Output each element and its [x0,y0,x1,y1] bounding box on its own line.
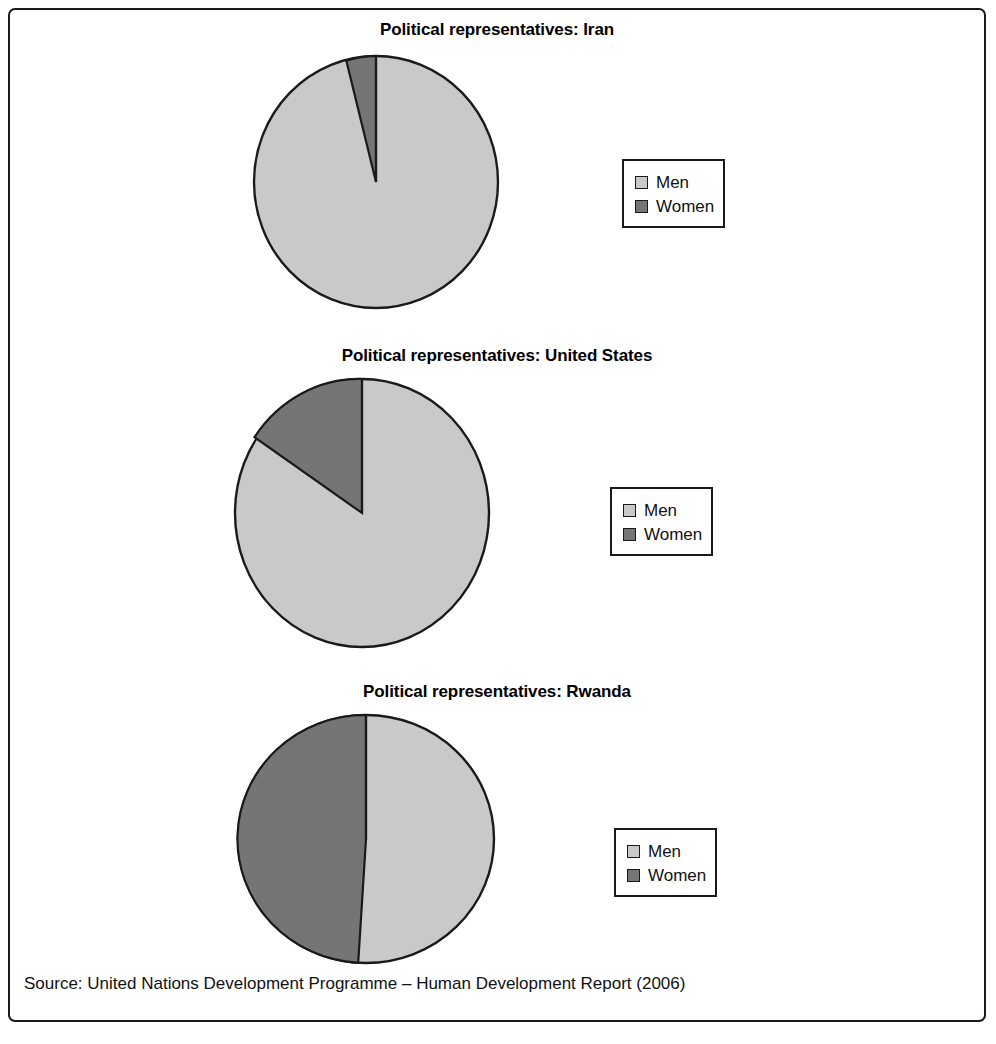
legend-item-women-united-states: Women [623,522,698,546]
chart-title-iran: Political representatives: Iran [10,20,984,40]
figure-frame: Political representatives: Iran Men Wome… [8,8,986,1022]
chart-title-rwanda: Political representatives: Rwanda [10,682,984,702]
legend-swatch-men-icon [623,504,636,517]
legend-swatch-women-icon [627,869,640,882]
legend-rwanda: Men Women [614,828,717,897]
legend-swatch-men-icon [635,176,648,189]
legend-label-men: Men [656,174,689,191]
legend-label-men: Men [648,843,681,860]
legend-item-women-rwanda: Women [627,863,702,887]
pie-svg-rwanda [235,712,497,966]
pie-svg-united-states [232,376,492,650]
chart-panel-united-states: Political representatives: United States… [10,342,984,652]
chart-title-united-states: Political representatives: United States [10,346,984,366]
legend-iran: Men Women [622,159,725,228]
legend-label-women: Women [656,198,714,215]
legend-united-states: Men Women [610,487,713,556]
legend-swatch-women-icon [635,200,648,213]
legend-item-men-iran: Men [635,170,710,194]
pie-chart-iran [251,53,501,311]
pie-chart-united-states [232,376,492,650]
pie-svg-iran [251,53,501,311]
legend-item-women-iran: Women [635,194,710,218]
legend-label-men: Men [644,502,677,519]
chart-panel-iran: Political representatives: Iran Men Wome… [10,16,984,316]
legend-label-women: Women [644,526,702,543]
pie-slice-women-rwanda [237,715,366,963]
pie-chart-rwanda [235,712,497,966]
legend-swatch-men-icon [627,845,640,858]
legend-swatch-women-icon [623,528,636,541]
legend-label-women: Women [648,867,706,884]
legend-item-men-united-states: Men [623,498,698,522]
legend-item-men-rwanda: Men [627,839,702,863]
chart-panel-rwanda: Political representatives: Rwanda Men Wo… [10,678,984,978]
source-note: Source: United Nations Development Progr… [24,974,685,994]
